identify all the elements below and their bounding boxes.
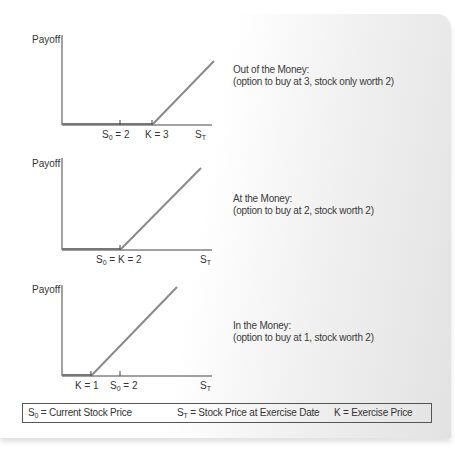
caption-title: In the Money:: [233, 320, 374, 332]
caption-at-the-money: At the Money: (option to buy at 2, stock…: [233, 193, 374, 217]
caption-title: At the Money:: [233, 193, 374, 205]
x-axis-label: ST: [200, 254, 212, 266]
caption-title: Out of the Money:: [233, 64, 394, 76]
x-axis-label: ST: [195, 129, 207, 141]
chart-in-the-money: Payoff K = 1 S0 = 2 ST: [32, 284, 212, 392]
y-axis-label: Payoff: [32, 284, 60, 295]
y-axis-label: Payoff: [32, 34, 60, 45]
caption-detail: (option to buy at 2, stock worth 2): [233, 205, 374, 217]
payoff-line: [120, 168, 201, 250]
legend-box: S0 = Current Stock Price ST = Stock Pric…: [22, 403, 432, 423]
legend-item-st: ST = Stock Price at Exercise Date: [177, 404, 319, 425]
tick-label-k: K = 1: [75, 380, 99, 391]
legend-item-s0: S0 = Current Stock Price: [28, 404, 132, 425]
tick-label-k: K = 3: [145, 129, 169, 140]
chart-out-of-the-money: Payoff S0 = 2 K = 3 ST: [32, 34, 214, 141]
tick-label-s0-k: S0 = K = 2: [96, 254, 142, 266]
chart-at-the-money: Payoff S0 = K = 2 ST: [32, 158, 212, 266]
caption-out-of-the-money: Out of the Money: (option to buy at 3, s…: [233, 64, 394, 88]
y-axis-label: Payoff: [32, 158, 60, 169]
legend-item-k: K = Exercise Price: [334, 404, 412, 422]
payoff-line: [91, 287, 177, 376]
caption-detail: (option to buy at 3, stock only worth 2): [233, 76, 394, 88]
payoff-line: [152, 61, 214, 125]
tick-label-s0: S0 = 2: [110, 380, 138, 392]
caption-detail: (option to buy at 1, stock worth 2): [233, 332, 374, 344]
tick-label-s0: S0 = 2: [102, 129, 130, 141]
caption-in-the-money: In the Money: (option to buy at 1, stock…: [233, 320, 374, 344]
x-axis-label: ST: [200, 380, 212, 392]
